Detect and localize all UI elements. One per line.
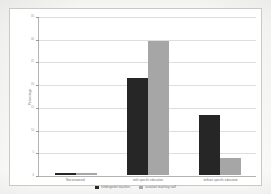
y-axis-tick-label: 35: [31, 16, 34, 19]
legend-label: assistant teaching staff: [145, 186, 175, 189]
y-axis-tick-label: 5: [33, 152, 34, 155]
plot-box: 05101520253035: [38, 17, 256, 177]
bar: [76, 173, 97, 175]
y-axis-tick: [36, 17, 39, 18]
y-axis-tick: [36, 40, 39, 41]
plot-area: 05101520253035: [38, 17, 256, 177]
bar-group: [40, 17, 112, 175]
chart-frame: Percentage 05101520253035 Not answeredwi…: [9, 8, 262, 186]
y-axis-tick-label: 10: [31, 129, 34, 132]
y-axis-tick: [36, 85, 39, 86]
x-axis-category-labels: Not answeredwith specific educationwitho…: [39, 179, 257, 182]
y-axis-tick: [36, 176, 39, 177]
bar: [55, 173, 76, 175]
y-axis-title: Percentage: [29, 89, 32, 105]
chart-legend: kindergarten teachersassistant teaching …: [10, 186, 261, 189]
y-axis-tick-label: 15: [31, 107, 34, 110]
y-axis-tick-label: 20: [31, 84, 34, 87]
y-axis-tick-label: 25: [31, 61, 34, 64]
y-axis-tick: [36, 131, 39, 132]
y-axis-tick: [36, 108, 39, 109]
legend-swatch: [139, 186, 143, 189]
x-axis-category-label: without specific education: [184, 179, 257, 182]
legend-item[interactable]: assistant teaching staff: [139, 186, 175, 189]
bar-group: [184, 17, 256, 175]
x-axis-category-label: with specific education: [112, 179, 185, 182]
screenshot-page: Percentage 05101520253035 Not answeredwi…: [0, 0, 271, 194]
x-axis-category-label: Not answered: [39, 179, 112, 182]
bar: [148, 41, 169, 175]
legend-label: kindergarten teachers: [101, 186, 130, 189]
y-axis-tick-label: 0: [33, 175, 34, 178]
legend-item[interactable]: kindergarten teachers: [95, 186, 130, 189]
y-axis-tick: [36, 62, 39, 63]
legend-swatch: [95, 186, 99, 189]
bar-group: [112, 17, 184, 175]
y-axis-tick-label: 30: [31, 38, 34, 41]
bar-groups: [40, 17, 256, 175]
bar: [127, 78, 148, 175]
bar: [220, 158, 241, 175]
bar: [199, 115, 220, 175]
y-axis-tick: [36, 153, 39, 154]
